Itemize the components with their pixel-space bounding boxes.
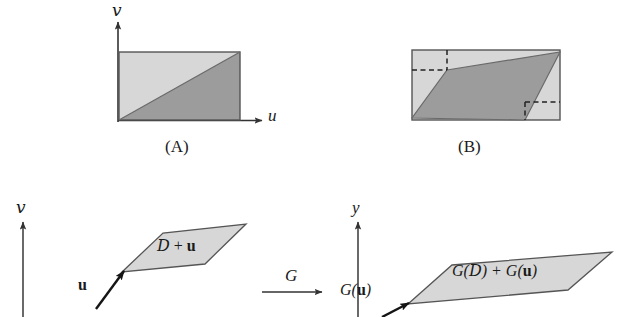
image-label-g-close2: ) xyxy=(532,262,537,279)
vector-gu-arrow xyxy=(382,303,409,317)
figure-container: v u (A) (B) v u D + u G y G(u) G(D) + G(… xyxy=(0,0,624,317)
panel-a-graphics xyxy=(118,22,262,122)
lower-left-graphics xyxy=(23,222,246,317)
map-g-label: G xyxy=(285,267,297,284)
lower-left-v-axis-label: v xyxy=(16,199,26,216)
gu-label-close: ) xyxy=(366,281,371,298)
image-label-g-close: ) + xyxy=(482,262,506,279)
domain-vector-u: u xyxy=(187,237,196,254)
vector-gu-label: G(u) xyxy=(340,282,371,298)
image-label-script-d: D xyxy=(469,261,482,280)
image-label-g-open: G( xyxy=(452,262,469,279)
vector-u-label: u xyxy=(78,277,87,293)
image-region-label: G(D) + G(u) xyxy=(452,263,537,279)
panel-a-u-axis-label: u xyxy=(268,107,277,124)
image-label-g-open2: G( xyxy=(506,262,523,279)
panel-b-graphics xyxy=(412,50,560,120)
image-label-vector-u: u xyxy=(523,262,532,279)
vector-u-arrow xyxy=(96,271,124,309)
gu-label-open: G( xyxy=(340,281,357,298)
panel-a-caption: (A) xyxy=(165,138,189,155)
lower-right-y-axis-label: y xyxy=(352,199,360,216)
panel-a-v-axis-label: v xyxy=(112,2,122,19)
domain-plus-sign: + xyxy=(170,237,187,254)
gu-label-vector: u xyxy=(357,281,366,298)
domain-script-d: D xyxy=(157,236,170,255)
panel-b-caption: (B) xyxy=(458,138,481,155)
domain-region-label: D + u xyxy=(157,238,196,254)
